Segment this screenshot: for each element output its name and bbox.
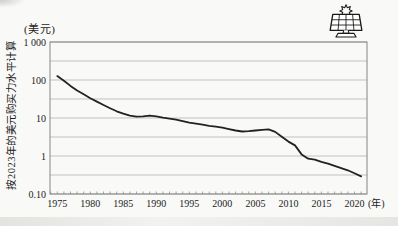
y-tick-label: 100: [0, 74, 46, 87]
x-tick-label: 2005: [240, 198, 270, 210]
x-tick-label: 1985: [108, 198, 138, 210]
x-axis-unit-label: (年): [368, 198, 385, 210]
x-tick-labels: 1975198019851990199520002005201020152020: [0, 198, 398, 212]
x-tick-label: 1980: [75, 198, 105, 210]
y-tick-labels: 1 0001001010.10: [0, 0, 46, 226]
x-tick-label: 2010: [273, 198, 303, 210]
x-tick-label: 2015: [306, 198, 336, 210]
x-tick-label: 2020: [339, 198, 369, 210]
x-tick-label: 1995: [174, 198, 204, 210]
solar-panel-icon: [325, 3, 367, 40]
x-tick-label: 1975: [42, 198, 72, 210]
y-tick-label: 1: [0, 150, 46, 163]
x-tick-label: 2000: [207, 198, 237, 210]
pv-module-price-chart: (美元) 按2023年的美元购买力水平计算 1 0001001010.10 19…: [0, 0, 398, 226]
y-tick-label: 10: [0, 112, 46, 125]
panel-base: [336, 33, 356, 37]
price-line: [57, 76, 361, 176]
x-tick-label: 1990: [141, 198, 171, 210]
y-tick-label: 1 000: [0, 36, 46, 49]
